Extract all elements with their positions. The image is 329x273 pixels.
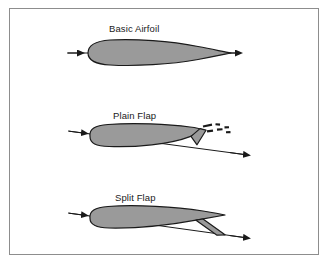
arrow-leading-edge-split [69, 213, 82, 215]
panel-label-basic-airfoil: Basic Airfoil [109, 23, 159, 34]
dashed-reference-plain-flap [203, 124, 231, 132]
figure-caption-fragment [10, 258, 322, 271]
arrow-leading-edge-plain [69, 131, 82, 133]
panel-label-plain-flap: Plain Flap [113, 110, 156, 121]
panel-plain-flap: Plain Flap [68, 110, 248, 155]
figure-root: Basic Airfoil Plain Flap [0, 0, 329, 273]
panel-split-flap: Split Flap [68, 192, 248, 238]
arrow-trailing-edge-split [230, 236, 244, 238]
airfoil-body-plain-flap [90, 124, 202, 147]
panel-label-split-flap: Split Flap [115, 192, 156, 203]
airfoil-body-basic [88, 40, 231, 66]
airfoil-diagram: Basic Airfoil Plain Flap [0, 0, 329, 273]
arrow-trailing-edge-plain [230, 153, 244, 155]
panel-basic-airfoil: Basic Airfoil [67, 23, 240, 65]
